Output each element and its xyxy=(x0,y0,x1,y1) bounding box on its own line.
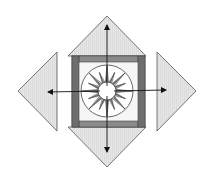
frame-top xyxy=(79,56,138,62)
frame-right xyxy=(138,56,145,127)
frame-bottom xyxy=(79,121,138,127)
right-triangle xyxy=(157,52,196,131)
quilt-assembly-diagram xyxy=(0,0,211,181)
